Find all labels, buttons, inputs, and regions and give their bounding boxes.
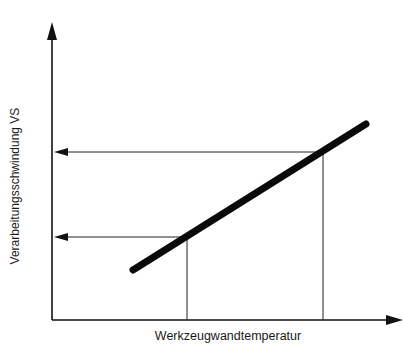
upper-readout-arrow-icon bbox=[54, 148, 68, 156]
x-axis-arrow-icon bbox=[386, 315, 403, 325]
y-axis-arrow-icon bbox=[47, 22, 57, 40]
lower-readout-arrow-icon bbox=[54, 233, 68, 241]
trend-line bbox=[133, 124, 366, 270]
x-axis bbox=[52, 315, 403, 325]
y-axis-label: Verarbeitungsschwindung VS bbox=[8, 108, 22, 265]
shrinkage-vs-mold-temperature-diagram: Werkzeugwandtemperatur Verarbeitungsschw… bbox=[0, 0, 403, 355]
y-axis bbox=[47, 22, 57, 320]
x-axis-label: Werkzeugwandtemperatur bbox=[155, 329, 301, 343]
